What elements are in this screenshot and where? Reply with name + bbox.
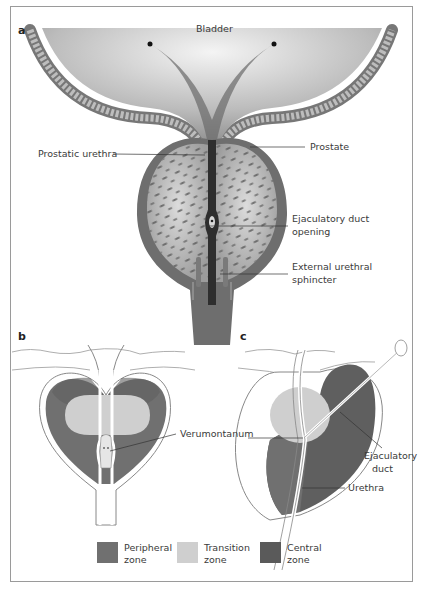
panel-b-illustration bbox=[12, 345, 195, 525]
label-external-urethral-sphincter: External urethral sphincter bbox=[292, 261, 372, 286]
legend-transition-zone: Transition zone bbox=[177, 542, 250, 565]
label-urethra: Urethra bbox=[348, 482, 384, 495]
panel-letter-a: a bbox=[18, 24, 25, 37]
anatomy-illustration bbox=[0, 0, 424, 593]
legend-peripheral-zone: Peripheral zone bbox=[97, 542, 172, 565]
central-zone-swatch bbox=[260, 542, 281, 563]
label-prostate: Prostate bbox=[310, 141, 349, 154]
panel-letter-b: b bbox=[18, 330, 26, 343]
label-verumontanum: Verumontanum bbox=[180, 428, 253, 441]
label-bladder: Bladder bbox=[196, 23, 233, 36]
label-ejaculatory-duct-opening: Ejaculatory duct opening bbox=[292, 213, 369, 238]
panel-a-illustration bbox=[30, 28, 392, 345]
label-prostatic-urethra: Prostatic urethra bbox=[38, 148, 117, 161]
panel-letter-c: c bbox=[240, 330, 247, 343]
legend-central-zone: Central zone bbox=[260, 542, 322, 565]
label-ejaculatory-duct: Ejaculatory duct bbox=[364, 450, 417, 475]
peripheral-zone-swatch bbox=[97, 542, 118, 563]
transition-zone-swatch bbox=[177, 542, 198, 563]
